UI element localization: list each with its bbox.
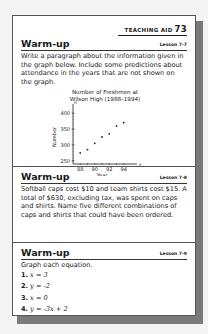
chart-title-line2: Wilson High (1988–1994) (70, 96, 140, 103)
warmup-section-7-9: Warm-up Lesson 7-9 Graph each equation. … (21, 247, 187, 316)
warmup-section-7-8: Warm-up Lesson 7-8 Softball caps cost $1… (21, 171, 187, 219)
section-header: Warm-up Lesson 7-8 (21, 171, 187, 184)
data-point (79, 152, 81, 154)
equation-item: 2.y = -2 (21, 281, 187, 293)
y-tick-label: 250 (60, 158, 70, 164)
section-title: Warm-up (21, 38, 70, 49)
lesson-label: Lesson 7-9 (160, 251, 187, 258)
warmup-section-7-7: Warm-up Lesson 7-7 Write a paragraph abo… (21, 38, 187, 176)
y-tick-label: 400 (60, 110, 70, 116)
data-point (123, 122, 125, 124)
teaching-aid-number: 73 (175, 24, 187, 34)
data-point (94, 143, 96, 145)
section-title: Warm-up (21, 171, 70, 182)
equation-item: 4.y = -3x + 2 (21, 304, 187, 316)
y-axis-letter: n (74, 100, 77, 105)
lesson-label: Lesson 7-8 (160, 175, 187, 182)
lesson-label: Lesson 7-7 (160, 42, 187, 49)
data-point (116, 125, 118, 127)
section-prompt: Softball caps cost $10 and team shirts c… (21, 185, 187, 219)
chart-svg: Number of Freshmen atWilson High (1988–1… (21, 86, 189, 176)
section-prompt: Write a paragraph about the information … (21, 52, 187, 86)
data-point (101, 136, 103, 138)
section-divider (13, 166, 195, 167)
equation-item: 3.x = 0 (21, 293, 187, 305)
section-header: Warm-up Lesson 7-7 (21, 38, 187, 51)
section-divider (13, 242, 195, 243)
y-axis-label: Number (51, 126, 57, 147)
section-prompt: Graph each equation. (21, 261, 187, 270)
y-tick-label: 350 (60, 126, 70, 132)
section-title: Warm-up (21, 247, 70, 258)
section-header: Warm-up Lesson 7-9 (21, 247, 187, 260)
teaching-aid-header: TEACHING AID73 (125, 24, 187, 34)
y-tick-label: 300 (60, 142, 70, 148)
data-point (87, 149, 89, 151)
equation-list: 1.x = 3 2.y = -2 3.x = 0 4.y = -3x + 2 (21, 270, 187, 316)
teaching-aid-page: TEACHING AID73 Warm-up Lesson 7-7 Write … (12, 15, 196, 316)
header-rule (118, 35, 187, 36)
chart-title-line1: Number of Freshmen at (72, 89, 139, 95)
data-point (108, 133, 110, 135)
equation-item: 1.x = 3 (21, 270, 187, 282)
teaching-aid-label: TEACHING AID (125, 27, 173, 33)
scatter-chart: Number of Freshmen atWilson High (1988–1… (21, 86, 189, 176)
